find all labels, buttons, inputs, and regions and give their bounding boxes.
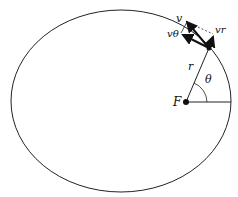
focus-point — [183, 99, 189, 105]
v-theta-arrow — [183, 35, 209, 48]
orbit-diagram: v vθ vr r θ F — [0, 0, 238, 197]
label-v-r: vr — [215, 24, 227, 35]
label-r: r — [188, 60, 194, 73]
label-focus: F — [172, 95, 182, 109]
v-r-arrow — [209, 37, 213, 48]
label-v: v — [176, 12, 183, 25]
label-theta: θ — [205, 73, 212, 86]
v-arrow — [187, 22, 209, 48]
label-v-theta: vθ — [167, 28, 179, 39]
orbit-ellipse — [11, 10, 231, 192]
